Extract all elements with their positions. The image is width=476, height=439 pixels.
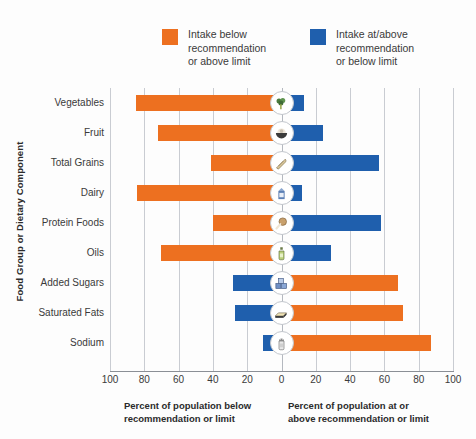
diverging-bar-chart: Intake below recommendation or above lim… [0, 0, 476, 439]
chart-row: Dairy [110, 178, 453, 208]
chart-row: Protein Foods [110, 208, 453, 238]
bar-right-sodium [282, 335, 431, 351]
x-tick-label: 60 [173, 374, 184, 385]
chart-row: Oils [110, 238, 453, 268]
caption-right-line2: above recommendation or limit [288, 413, 429, 426]
category-label-vegetables: Vegetables [55, 95, 105, 111]
x-tick-label: 100 [102, 374, 119, 385]
category-label-total-grains: Total Grains [51, 155, 104, 171]
x-tick-label: 80 [413, 374, 424, 385]
caption-left: Percent of population below recommendati… [124, 400, 251, 425]
legend-below-line3: or above limit [188, 55, 266, 69]
x-axis-ticks: 10080604020020406080100 [0, 374, 476, 388]
bar-right-total-grains [282, 155, 380, 171]
x-tick-label: 80 [139, 374, 150, 385]
bar-right-added-sugars [282, 275, 399, 291]
category-label-protein-foods: Protein Foods [42, 215, 104, 231]
legend-item-above: Intake at/above recommendation or below … [310, 28, 414, 69]
category-label-oils: Oils [87, 245, 104, 261]
protein-drumstick-icon [270, 211, 294, 235]
x-tick-label: 40 [207, 374, 218, 385]
legend-item-below: Intake below recommendation or above lim… [162, 28, 266, 69]
chart-row: Vegetables [110, 88, 453, 118]
bar-left-vegetables [136, 95, 282, 111]
bar-left-oils [161, 245, 281, 261]
fruit-bowl-icon [270, 121, 294, 145]
legend-swatch-blue [310, 29, 326, 45]
category-label-saturated-fats: Saturated Fats [38, 305, 104, 321]
grain-bread-icon [270, 151, 294, 175]
legend-above-line1: Intake at/above [336, 28, 414, 42]
legend-label-below: Intake below recommendation or above lim… [188, 28, 266, 69]
legend-swatch-orange [162, 29, 178, 45]
chart-row: Fruit [110, 118, 453, 148]
x-tick-label: 40 [345, 374, 356, 385]
bar-right-protein-foods [282, 215, 381, 231]
milk-carton-icon [270, 181, 294, 205]
x-tick-label: 100 [445, 374, 462, 385]
x-tick-label: 20 [310, 374, 321, 385]
bar-left-dairy [137, 185, 281, 201]
chart-legend: Intake below recommendation or above lim… [0, 28, 476, 78]
legend-above-line3: or below limit [336, 55, 414, 69]
x-axis-line [110, 371, 454, 372]
chart-row: Added Sugars [110, 268, 453, 298]
y-axis-title: Food Group or Dietary Component [14, 137, 25, 307]
category-label-added-sugars: Added Sugars [41, 275, 104, 291]
legend-below-line2: recommendation [188, 42, 266, 56]
chart-row: Saturated Fats [110, 298, 453, 328]
category-label-dairy: Dairy [81, 185, 104, 201]
gridline [453, 88, 454, 371]
salt-shaker-icon [270, 331, 294, 355]
legend-label-above: Intake at/above recommendation or below … [336, 28, 414, 69]
category-label-fruit: Fruit [84, 125, 104, 141]
caption-right: Percent of population at or above recomm… [288, 400, 429, 425]
legend-below-line1: Intake below [188, 28, 266, 42]
plot-area: VegetablesFruitTotal GrainsDairyProtein … [110, 88, 453, 371]
caption-right-line1: Percent of population at or [288, 400, 429, 413]
x-tick-label: 0 [279, 374, 285, 385]
legend-above-line2: recommendation [336, 42, 414, 56]
x-tick-label: 20 [242, 374, 253, 385]
oil-bottle-icon [270, 241, 294, 265]
broccoli-icon [270, 91, 294, 115]
chart-row: Sodium [110, 328, 453, 358]
bar-right-saturated-fats [282, 305, 404, 321]
category-label-sodium: Sodium [70, 335, 104, 351]
x-tick-label: 60 [379, 374, 390, 385]
sugar-cubes-icon [270, 271, 294, 295]
caption-left-line2: recommendation or limit [124, 413, 251, 426]
bar-left-fruit [158, 125, 281, 141]
butter-icon [270, 301, 294, 325]
caption-left-line1: Percent of population below [124, 400, 251, 413]
chart-row: Total Grains [110, 148, 453, 178]
